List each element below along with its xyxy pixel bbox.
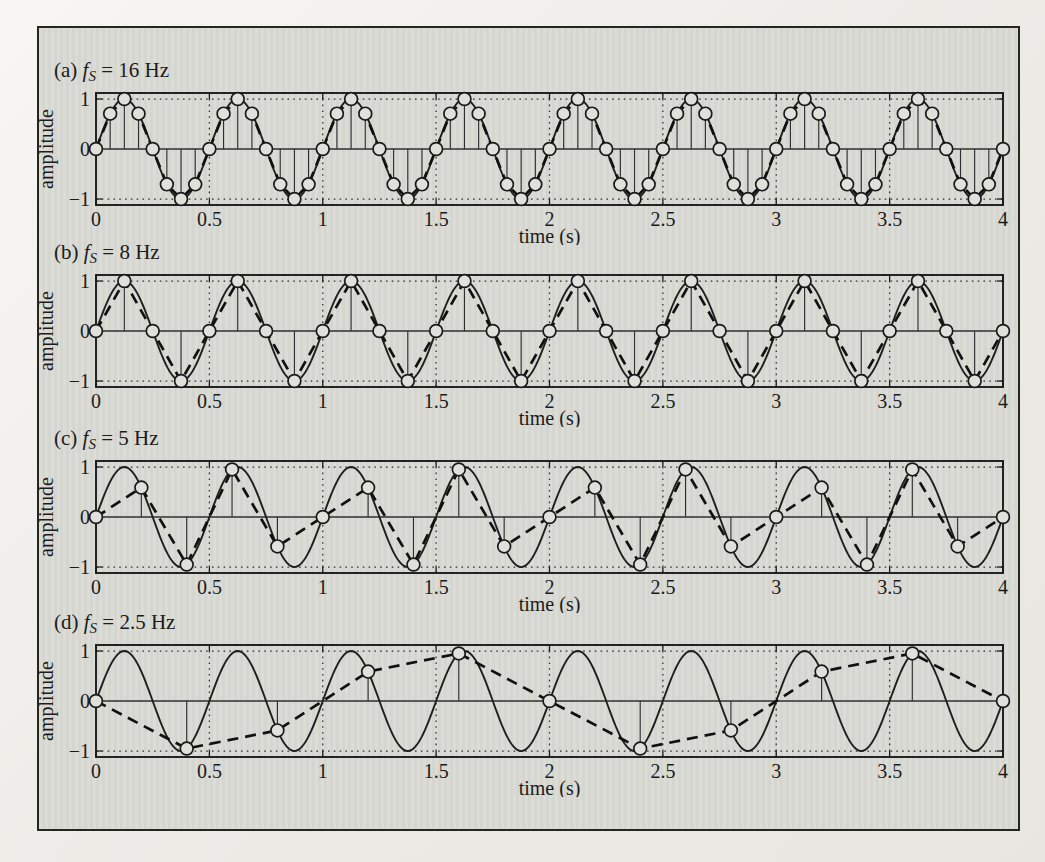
svg-text:0: 0 xyxy=(80,320,90,342)
svg-text:0: 0 xyxy=(91,760,101,782)
x-axis-label: time (s) xyxy=(519,777,581,797)
y-tick-labels: 10−1 xyxy=(69,88,90,210)
svg-text:1.5: 1.5 xyxy=(424,760,449,782)
svg-text:4: 4 xyxy=(998,576,1008,598)
svg-text:3.5: 3.5 xyxy=(877,576,902,598)
panel-d: (d) fS = 2.5 Hz10−100.511.522.533.54time… xyxy=(39,609,1020,797)
svg-text:0.5: 0.5 xyxy=(197,576,222,598)
svg-text:0.5: 0.5 xyxy=(197,760,222,782)
svg-text:1: 1 xyxy=(318,576,328,598)
chart-panel-d: (d) fS = 2.5 Hz10−100.511.522.533.54time… xyxy=(39,609,1020,797)
panel-title: (b) fS = 8 Hz xyxy=(54,240,160,266)
panel-a: (a) fS = 16 Hz10−100.511.522.533.54time … xyxy=(39,57,1020,245)
panel-title: (a) fS = 16 Hz xyxy=(54,58,169,84)
svg-text:2.5: 2.5 xyxy=(650,390,675,412)
svg-text:3: 3 xyxy=(771,208,781,230)
svg-text:0: 0 xyxy=(91,576,101,598)
svg-text:4: 4 xyxy=(998,390,1008,412)
x-axis-label: time (s) xyxy=(519,407,581,427)
svg-text:1: 1 xyxy=(318,390,328,412)
scanned-page: (a) fS = 16 Hz10−100.511.522.533.54time … xyxy=(0,0,1045,862)
y-tick-labels: 10−1 xyxy=(69,270,90,392)
svg-text:0.5: 0.5 xyxy=(197,390,222,412)
svg-text:0.5: 0.5 xyxy=(197,208,222,230)
svg-text:0: 0 xyxy=(91,390,101,412)
chart-panel-b: (b) fS = 8 Hz10−100.511.522.533.54time (… xyxy=(39,239,1020,427)
svg-text:1: 1 xyxy=(80,640,90,662)
svg-text:2.5: 2.5 xyxy=(650,576,675,598)
svg-text:0: 0 xyxy=(80,138,90,160)
svg-text:2.5: 2.5 xyxy=(650,208,675,230)
y-axis-label: amplitude xyxy=(39,661,58,741)
svg-text:3: 3 xyxy=(771,760,781,782)
svg-text:−1: −1 xyxy=(69,188,90,210)
svg-text:1.5: 1.5 xyxy=(424,576,449,598)
y-axis-label: amplitude xyxy=(39,109,58,189)
svg-text:1: 1 xyxy=(80,456,90,478)
svg-text:1: 1 xyxy=(318,760,328,782)
svg-text:0: 0 xyxy=(80,506,90,528)
svg-text:1: 1 xyxy=(80,270,90,292)
svg-text:3: 3 xyxy=(771,576,781,598)
figure-box: (a) fS = 16 Hz10−100.511.522.533.54time … xyxy=(37,26,1020,831)
panel-title: (c) fS = 5 Hz xyxy=(54,426,159,452)
chart-panel-c: (c) fS = 5 Hz10−100.511.522.533.54time (… xyxy=(39,425,1020,613)
y-tick-labels: 10−1 xyxy=(69,640,90,762)
y-tick-labels: 10−1 xyxy=(69,456,90,578)
panel-b: (b) fS = 8 Hz10−100.511.522.533.54time (… xyxy=(39,239,1020,427)
svg-text:4: 4 xyxy=(998,760,1008,782)
svg-text:2.5: 2.5 xyxy=(650,760,675,782)
svg-text:−1: −1 xyxy=(69,556,90,578)
y-axis-label: amplitude xyxy=(39,291,58,371)
svg-text:1: 1 xyxy=(80,88,90,110)
svg-text:3.5: 3.5 xyxy=(877,390,902,412)
svg-text:3.5: 3.5 xyxy=(877,760,902,782)
svg-text:0: 0 xyxy=(91,208,101,230)
svg-text:1.5: 1.5 xyxy=(424,390,449,412)
svg-text:0: 0 xyxy=(80,690,90,712)
svg-text:3.5: 3.5 xyxy=(877,208,902,230)
svg-text:−1: −1 xyxy=(69,740,90,762)
svg-text:1: 1 xyxy=(318,208,328,230)
svg-text:4: 4 xyxy=(998,208,1008,230)
y-axis-label: amplitude xyxy=(39,477,58,557)
panel-title: (d) fS = 2.5 Hz xyxy=(54,610,175,636)
chart-panel-a: (a) fS = 16 Hz10−100.511.522.533.54time … xyxy=(39,57,1020,245)
svg-text:−1: −1 xyxy=(69,370,90,392)
panel-c: (c) fS = 5 Hz10−100.511.522.533.54time (… xyxy=(39,425,1020,613)
svg-text:3: 3 xyxy=(771,390,781,412)
svg-text:1.5: 1.5 xyxy=(424,208,449,230)
